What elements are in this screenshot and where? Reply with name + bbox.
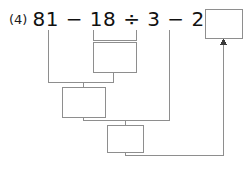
step1-box[interactable] bbox=[93, 42, 137, 73]
worksheet-problem: (4) 81 − 18 ÷ 3 − 21 = bbox=[0, 0, 248, 169]
step2-box-value bbox=[63, 88, 105, 117]
group-18-div-3-bracket bbox=[94, 30, 137, 41]
step3-box-value bbox=[108, 126, 143, 152]
step1-box-value bbox=[94, 43, 136, 72]
answer-arrow-head bbox=[220, 38, 227, 45]
answer-box[interactable] bbox=[205, 9, 243, 39]
step2-box[interactable] bbox=[62, 87, 106, 118]
step3-box[interactable] bbox=[107, 125, 144, 153]
answer-box-value bbox=[206, 10, 242, 38]
